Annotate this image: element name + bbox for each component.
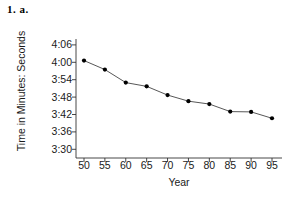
data-point xyxy=(207,102,211,106)
data-point xyxy=(124,81,128,85)
data-point xyxy=(228,110,232,114)
data-point xyxy=(103,67,107,71)
data-point-markers xyxy=(82,58,274,120)
data-point xyxy=(145,84,149,88)
data-point xyxy=(82,58,86,62)
chart-figure: Time in Minutes: Seconds 4:064:003:543:4… xyxy=(0,0,290,198)
data-point xyxy=(186,99,190,103)
plot-area xyxy=(0,0,290,198)
data-line xyxy=(84,61,272,119)
axis-ticks xyxy=(72,45,272,162)
data-point xyxy=(165,93,169,97)
data-point xyxy=(249,110,253,114)
data-point xyxy=(270,116,274,120)
